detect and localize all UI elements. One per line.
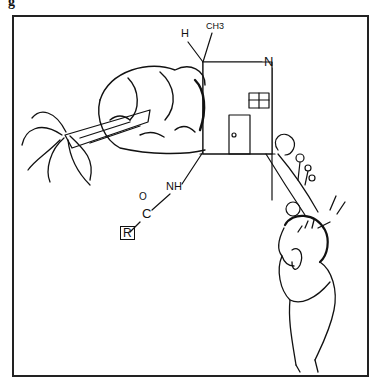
chem-label-o: O xyxy=(139,192,147,202)
ball-icon xyxy=(286,202,300,216)
flowers-icon xyxy=(275,134,315,185)
chem-label-nh: NH xyxy=(166,181,182,192)
chem-label-ch3: CH3 xyxy=(206,22,224,31)
bushes-icon xyxy=(99,66,205,153)
worried-man-icon xyxy=(279,196,345,372)
fallen-tree-icon xyxy=(22,110,150,185)
illustration-canvas xyxy=(0,0,383,385)
house-icon xyxy=(200,62,275,154)
chem-label-h: H xyxy=(181,28,189,39)
chem-label-r: R xyxy=(120,226,135,240)
chem-label-c: C xyxy=(142,207,151,220)
chem-label-n: N xyxy=(264,55,273,68)
